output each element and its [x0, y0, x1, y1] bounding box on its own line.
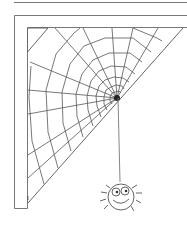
- web-center: [114, 95, 120, 101]
- web-spokes: [28, 28, 158, 178]
- spider: [100, 184, 142, 211]
- corner-triangle: [28, 28, 49, 52]
- spider-body: [108, 184, 134, 210]
- web-rings: [28, 28, 162, 200]
- spider-web-illustration: [0, 0, 187, 227]
- illustration: [0, 0, 187, 227]
- spider-thread: [118, 98, 120, 182]
